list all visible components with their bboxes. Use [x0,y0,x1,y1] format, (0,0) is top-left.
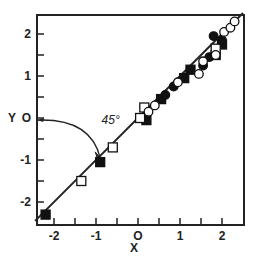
filled-circle-marker [209,32,218,41]
open-square-marker [77,177,86,186]
open-circle-marker [199,57,208,66]
x-axis-label: X [130,241,138,255]
y-axis-label: Y [8,111,16,125]
open-circle-marker [174,78,183,87]
filled-square-marker [96,158,105,167]
x-tick-label: 2 [219,229,226,243]
arc-arrow [37,120,100,158]
open-square-marker [136,114,145,123]
open-circle-marker [151,101,160,110]
open-circle-marker [211,51,220,60]
y-tick-label: O [22,111,31,125]
x-tick-label: -1 [91,229,102,243]
annotation-45-degrees: 45° [37,113,120,158]
angle-label: 45° [102,113,120,127]
axis-tick-labels: -2-1O12-2-1O12 [20,27,225,243]
filled-circle-marker [161,91,170,100]
y-tick-label: 2 [24,27,31,41]
y-tick-label: 1 [24,69,31,83]
open-circle-marker [195,70,204,79]
x-tick-label: -2 [49,229,60,243]
filled-square-marker [186,65,195,74]
filled-circle-marker [218,36,227,45]
open-square-marker [108,143,117,152]
y-tick-label: -2 [20,195,31,209]
x-tick-label: 1 [177,229,184,243]
filled-square-marker [41,210,50,219]
open-circle-marker [230,17,239,26]
scatter-chart: -2-1O12-2-1O12 45° X Y [0,0,260,257]
y-tick-label: -1 [20,153,31,167]
